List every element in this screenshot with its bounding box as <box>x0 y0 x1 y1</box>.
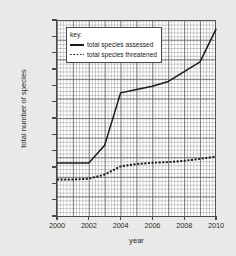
x-tick-mark <box>56 216 57 220</box>
x-tick-label: 2010 <box>208 221 224 230</box>
y-tick-mark <box>52 166 56 167</box>
x-tick-mark <box>120 216 121 220</box>
x-tick-label: 2000 <box>49 221 65 230</box>
x-tick-mark <box>184 216 185 220</box>
y-tick-mark <box>52 117 56 118</box>
x-tick-mark <box>88 216 89 220</box>
y-tick-mark <box>52 68 56 69</box>
x-tick-mark <box>152 216 153 220</box>
y-axis-line <box>56 19 57 217</box>
dotted-line-swatch-icon <box>70 51 84 57</box>
y-tick-mark <box>52 101 56 102</box>
x-axis-title: year <box>57 236 216 245</box>
chart-legend: key: total species assessed total specie… <box>66 27 162 63</box>
legend-label-threatened: total species threatened <box>87 50 157 60</box>
legend-title: key: <box>70 30 158 40</box>
y-tick-mark <box>52 199 56 200</box>
x-axis-line <box>56 216 217 217</box>
x-tick-mark <box>215 216 216 220</box>
y-tick-mark <box>52 183 56 184</box>
x-tick-label: 2008 <box>176 221 192 230</box>
species-line-chart: 0500010000150002000025000300003500040000… <box>0 0 236 256</box>
y-tick-mark <box>52 215 56 216</box>
legend-label-assessed: total species assessed <box>87 40 153 50</box>
y-tick-mark <box>52 85 56 86</box>
y-tick-mark <box>52 134 56 135</box>
y-tick-mark <box>52 36 56 37</box>
x-tick-label: 2004 <box>113 221 129 230</box>
y-axis-title: total number of species <box>19 34 28 184</box>
y-tick-mark <box>52 52 56 53</box>
x-tick-label: 2002 <box>81 221 97 230</box>
x-tick-label: 2006 <box>144 221 160 230</box>
legend-item-threatened: total species threatened <box>70 50 158 60</box>
legend-item-assessed: total species assessed <box>70 40 158 50</box>
series-line-threatened <box>57 157 216 180</box>
y-tick-mark <box>52 150 56 151</box>
solid-line-swatch-icon <box>70 42 84 48</box>
y-tick-mark <box>52 19 56 20</box>
